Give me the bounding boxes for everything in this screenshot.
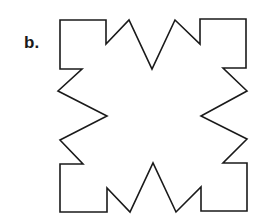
zigzag-square-diagram bbox=[0, 0, 256, 224]
zigzag-polygon bbox=[58, 19, 247, 212]
